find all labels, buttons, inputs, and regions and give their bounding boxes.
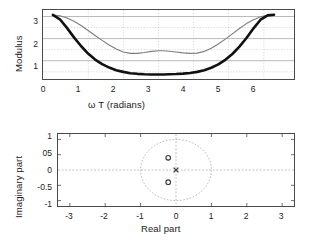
pz-xtick-neg2: -2 [94, 211, 114, 221]
modulus-x-axis-label: ω T (radians) [88, 99, 145, 110]
pole-zero-x-axis-label: Real part [141, 223, 180, 234]
pz-xtick-1: 1 [201, 211, 221, 221]
modulus-xtick-2: 2 [103, 84, 123, 94]
modulus-curve-lower [53, 15, 274, 75]
pole-zero-y-axis-label: Imaginary part [13, 156, 24, 218]
modulus-xtick-1: 1 [68, 84, 88, 94]
pz-ytick-neg05: -0.5 [28, 182, 52, 192]
pole-zero-plot-area [57, 133, 295, 207]
pz-xtick-3: 3 [271, 211, 291, 221]
pz-xtick-neg3: -3 [59, 211, 79, 221]
modulus-xtick-0: 0 [33, 84, 53, 94]
modulus-curve-upper [53, 15, 274, 54]
modulus-ytick-1: 1 [18, 61, 38, 71]
pole-zero-plot-svg [58, 134, 294, 206]
figure-panel-pair: Modulus 3 2 1 [0, 0, 311, 241]
pz-ytick-0: 0 [28, 165, 52, 175]
pz-ytick-05: 05 [28, 148, 52, 158]
pole-zero-chart-panel: Imaginary part 1 05 0 -0.5 -1 [0, 120, 311, 241]
pz-ytick-neg1: -1 [28, 199, 52, 209]
modulus-plot-svg [43, 10, 294, 79]
pz-xtick-2: 2 [236, 211, 256, 221]
pz-xtick-0: 0 [166, 211, 186, 221]
modulus-xtick-5: 5 [208, 84, 228, 94]
modulus-xtick-3: 3 [138, 84, 158, 94]
modulus-plot-area [42, 9, 295, 80]
modulus-xtick-4: 4 [173, 84, 193, 94]
pz-ytick-1: 1 [28, 131, 52, 141]
modulus-ytick-3: 3 [18, 16, 38, 26]
pz-xtick-neg1: -1 [130, 211, 150, 221]
modulus-xtick-6: 6 [243, 84, 263, 94]
modulus-chart-panel: Modulus 3 2 1 [0, 0, 311, 120]
modulus-ytick-2: 2 [18, 39, 38, 49]
